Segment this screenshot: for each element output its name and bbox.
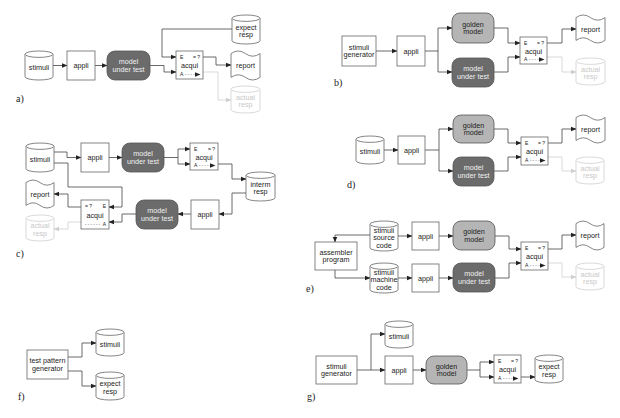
box-node-appli2: appli <box>191 200 219 229</box>
node-label-line: stimuli <box>360 147 381 156</box>
box-node-gen: stimuligenerator <box>316 356 357 384</box>
connector-arrow <box>495 236 521 249</box>
connector-arrow <box>203 57 231 65</box>
box-node-appli2: appli <box>412 264 439 292</box>
mut-node-mut2: modelunder test <box>136 200 178 229</box>
connector-arrow <box>548 129 576 143</box>
node-label-line: stimuli <box>389 332 410 341</box>
node-label-line: under test <box>141 214 173 223</box>
test-flow-diagram: stimuliapplimodelunder testexpectrespE= … <box>0 0 620 418</box>
connector-arrow <box>495 263 521 278</box>
golden-node-golden: goldenmodel <box>453 221 495 250</box>
connector-arrow <box>371 334 385 370</box>
panel-g: stimuligeneratorstimuliappligoldenmodelE… <box>316 321 563 384</box>
db-node-stimuli: stimuli <box>25 51 53 80</box>
nodes-layer: stimuliapplimodelunder testexpectrespE= … <box>25 13 605 400</box>
connector-arrow <box>439 150 453 171</box>
golden-node-golden: goldenmodel <box>426 356 467 384</box>
node-label-line: appli <box>403 47 419 56</box>
acqui-node-acqui: E= ?Aacqui <box>176 51 203 79</box>
faded-connector-arrow <box>548 263 576 277</box>
node-label-line: stimuli <box>100 340 121 349</box>
node-label-line: appli <box>391 366 407 375</box>
node-label-line: program <box>323 255 350 264</box>
node-label-line: code <box>376 283 392 292</box>
acqui-label: acqui <box>525 47 543 56</box>
node-label-line: generator <box>32 364 63 373</box>
faded-connector-arrow <box>548 157 576 171</box>
connector-arrow <box>109 214 136 222</box>
node-label-line: report <box>581 25 600 34</box>
db-node-expect: expectresp <box>232 15 260 44</box>
compare-operator-label: = ? <box>538 245 545 251</box>
box-node-appli: appli <box>397 36 425 66</box>
connector-arrow <box>164 149 190 158</box>
node-label-line: resp <box>254 187 268 196</box>
node-label-line: resp <box>239 30 253 39</box>
node-label-line: appli <box>73 61 89 70</box>
mut-node-mut: modelunder test <box>453 263 495 292</box>
faded-connector-arrow <box>547 57 576 72</box>
db-node-expect: expectresp <box>535 355 563 383</box>
node-label-line: resp <box>239 100 253 109</box>
acqui-label: acqui <box>181 61 199 70</box>
database-cylinder-top <box>25 51 53 57</box>
node-label-line: resp <box>583 277 597 286</box>
panel-label-d: d) <box>347 179 355 191</box>
db-node-stimuli: stimuli <box>356 136 384 164</box>
panel-f: test patterngeneratorstimuliexpectresp <box>27 329 124 400</box>
db-node-stimuli: stimuli <box>26 143 54 172</box>
connector-arrow <box>494 28 520 43</box>
node-label-line: under test <box>457 72 489 81</box>
compare-operator-label: = ? <box>85 203 92 209</box>
panel-a: stimuliapplimodelunder testexpectrespE= … <box>25 15 260 113</box>
database-cylinder-top <box>246 172 275 178</box>
node-label-line: code <box>376 241 392 250</box>
acqui-label: acqui <box>526 252 544 261</box>
acqui-label: acqui <box>195 153 213 162</box>
database-cylinder-top <box>576 157 604 163</box>
connector-arrow <box>335 270 370 278</box>
mut-node-mut: modelunder test <box>107 51 150 80</box>
connector-arrow <box>425 129 453 150</box>
connector-arrow <box>548 235 576 249</box>
panel-b: stimuligeneratorappligoldenmodelmodelund… <box>342 13 605 87</box>
database-cylinder-top <box>26 143 54 149</box>
acqui-node-acqui: E= ?Aacqui <box>521 242 548 270</box>
node-label-line: under test <box>113 65 145 74</box>
database-cylinder-top <box>356 136 384 142</box>
connector-arrow <box>219 193 246 214</box>
db-node-actual: actualresp <box>576 157 604 184</box>
box-node-appli1: appli <box>412 222 439 250</box>
node-label-line: stimuli <box>29 63 50 72</box>
connector-arrow <box>218 164 246 179</box>
connector-arrow <box>178 158 190 165</box>
panel-label-c: c) <box>16 248 24 260</box>
box-node-appli: appli <box>67 51 95 80</box>
doc-node-report: report <box>576 221 604 250</box>
connector-arrow <box>425 28 452 51</box>
connector-arrow <box>547 29 576 43</box>
box-node-appli1: appli <box>81 143 109 172</box>
compare-operator-label: = ? <box>537 40 544 46</box>
golden-node-golden: goldenmodel <box>453 115 494 143</box>
database-cylinder-top <box>231 86 260 92</box>
acqui-label: acqui <box>499 365 517 374</box>
panel-label-f: f) <box>18 391 25 403</box>
compare-operator-label: = ? <box>208 146 215 152</box>
db-node-src: stimulisourcecode <box>370 221 398 251</box>
node-label-line: resp <box>583 171 597 180</box>
box-node-appli: appli <box>398 136 425 164</box>
node-label-line: stimuli <box>30 155 51 164</box>
db-node-expect: expectresp <box>96 372 124 400</box>
connector-arrow <box>480 370 494 377</box>
compare-operator-label: = ? <box>538 140 545 146</box>
faded-connector-arrow <box>54 222 81 229</box>
panel-e: assemblerprogramstimulisourcecodeappligo… <box>315 221 604 293</box>
node-label-line: model <box>464 235 484 244</box>
box-node-gen: test patterngenerator <box>27 350 68 379</box>
faded-connector-arrow <box>203 72 231 100</box>
node-label-line: report <box>31 190 50 199</box>
node-label-line: generator <box>344 50 375 59</box>
box-node-appli: appli <box>385 356 413 384</box>
